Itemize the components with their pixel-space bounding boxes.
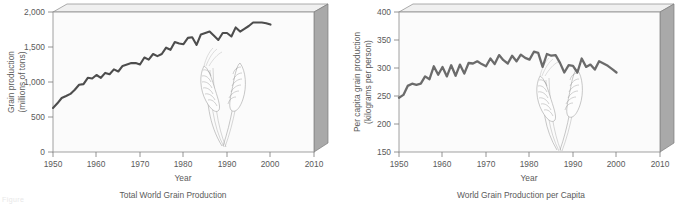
figure-container: 0 500 1,000 1,500 2,000 Grain production… [0, 0, 692, 206]
box-top-face [399, 4, 674, 12]
chart-svg-right: 150 200 250 300 350 400 Per capita grain… [346, 0, 692, 206]
plot-background [53, 12, 314, 152]
y-axis-title-line2: (millions of tons) [17, 51, 27, 112]
x-tick-label-2000: 2000 [261, 159, 280, 169]
x-tick-label-1990: 1990 [564, 159, 583, 169]
box-side-face [660, 4, 674, 152]
plot-background [399, 12, 660, 152]
y-tick-label-0: 0 [40, 147, 45, 157]
x-tick-label-1950: 1950 [44, 159, 63, 169]
x-tick-label-2010: 2010 [305, 159, 324, 169]
y-axis-title-line1: Grain production [6, 51, 16, 113]
x-tick-label-2000: 2000 [607, 159, 626, 169]
x-axis-ticks-left [53, 152, 314, 157]
y-tick-label-500: 500 [31, 112, 45, 122]
x-tick-label-1970: 1970 [131, 159, 150, 169]
y-tick-label-400: 400 [377, 7, 391, 17]
x-tick-label-1960: 1960 [433, 159, 452, 169]
x-axis-title: Year [175, 173, 192, 183]
x-tick-label-1950: 1950 [390, 159, 409, 169]
box-side-face [314, 4, 328, 152]
y-tick-label-350: 350 [377, 35, 391, 45]
y-tick-label-200: 200 [377, 119, 391, 129]
y-tick-label-1000: 1,000 [24, 77, 45, 87]
y-axis-ticks-left [48, 12, 53, 152]
y-tick-label-250: 250 [377, 91, 391, 101]
y-axis-ticks-right [394, 12, 399, 152]
x-axis-title: Year [521, 173, 538, 183]
x-tick-label-1980: 1980 [174, 159, 193, 169]
figure-caption-fragment: Figure [2, 196, 24, 203]
box-top-face [53, 4, 328, 12]
x-tick-label-1960: 1960 [87, 159, 106, 169]
x-tick-label-1990: 1990 [218, 159, 237, 169]
y-tick-label-300: 300 [377, 63, 391, 73]
chart-panel-world-grain-production-per-capita: 150 200 250 300 350 400 Per capita grain… [346, 0, 692, 206]
y-axis-title-line2: (kilograms per person) [363, 40, 373, 124]
x-tick-label-1970: 1970 [477, 159, 496, 169]
x-tick-label-1980: 1980 [520, 159, 539, 169]
panel-caption: Total World Grain Production [120, 190, 227, 200]
y-tick-label-150: 150 [377, 147, 391, 157]
y-tick-label-1500: 1,500 [24, 42, 45, 52]
chart-panel-total-world-grain-production: 0 500 1,000 1,500 2,000 Grain production… [0, 0, 346, 206]
chart-svg-left: 0 500 1,000 1,500 2,000 Grain production… [0, 0, 346, 206]
y-axis-title-line1: Per capita grain production [352, 32, 362, 132]
x-axis-ticks-right [399, 152, 660, 157]
panel-caption: World Grain Production per Capita [457, 190, 585, 200]
y-tick-label-2000: 2,000 [24, 7, 45, 17]
x-tick-label-2010: 2010 [651, 159, 670, 169]
